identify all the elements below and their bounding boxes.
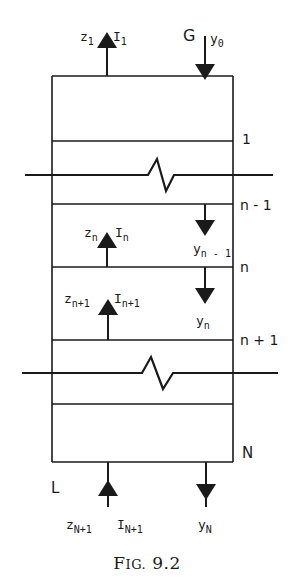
label-x1: I1 (113, 30, 127, 47)
label-z-N+1: zN+1 (66, 518, 92, 535)
stage-label-1: 1 (242, 132, 251, 146)
label-x-n+1: In+1 (114, 292, 140, 309)
break-line-upper (25, 159, 273, 191)
label-z1: z1 (80, 30, 94, 47)
stage-label-n: n (240, 260, 249, 274)
label-zn: zn (84, 226, 98, 243)
label-gas-G: G (183, 28, 195, 44)
column-diagram (0, 0, 294, 577)
label-xn: In (115, 226, 129, 243)
label-liquid-L: L (51, 481, 59, 496)
label-yn: yn (196, 314, 210, 331)
label-yN: yN (198, 518, 212, 535)
stage-label-n-1: n - 1 (240, 198, 272, 212)
label-z-n+1: zn+1 (64, 292, 90, 309)
stage-label-N: N (242, 446, 253, 461)
label-x-N+1: IN+1 (117, 518, 143, 535)
break-line-lower (22, 357, 278, 389)
label-y-n-1: yn - 1 (193, 242, 231, 259)
label-y0: y0 (210, 32, 224, 49)
stage-label-n+1: n + 1 (240, 333, 278, 347)
figure-caption: FIG. 9.2 (0, 553, 294, 573)
